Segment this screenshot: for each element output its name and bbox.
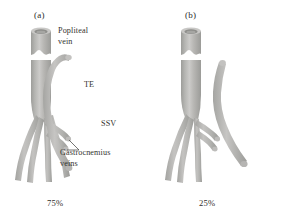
gastrocnemius-stub-end-a-1 <box>66 137 71 142</box>
gastrocnemius-stub-end-b-2 <box>212 147 217 152</box>
label-ssv: SSV <box>101 119 116 130</box>
vein-anatomy-figure <box>0 0 283 220</box>
panel-label-a: (a) <box>34 10 45 20</box>
label-te: TE <box>84 80 94 91</box>
vein-lumen-inner-b <box>186 31 195 34</box>
ssv-proximal-end-b <box>219 60 226 66</box>
label-popliteal-vein-line2: vein <box>58 37 88 48</box>
ssv-distal-end-b <box>240 161 247 167</box>
label-gastrocnemius-veins: Gastrocnemius veins <box>60 148 110 169</box>
label-gastrocnemius-veins-line1: Gastrocnemius <box>60 148 110 157</box>
popliteal-trunk-b-taper <box>181 95 201 120</box>
te-terminal-end-a <box>65 55 71 61</box>
gastrocnemius-stub-end-b-1 <box>215 137 220 142</box>
ssv-detached-b <box>213 62 247 166</box>
popliteal-trunk-b-body <box>181 31 201 95</box>
label-gastrocnemius-veins-line2: veins <box>60 159 110 170</box>
panel-b-percentage: 25% <box>199 198 215 208</box>
label-popliteal-vein: Popliteal vein <box>58 26 88 47</box>
panel-b-vessels <box>165 27 248 183</box>
panel-label-b: (b) <box>185 10 196 20</box>
panel-a-percentage: 75% <box>47 198 63 208</box>
vein-lumen-inner-a <box>36 31 45 34</box>
label-popliteal-vein-line1: Popliteal <box>58 26 88 35</box>
